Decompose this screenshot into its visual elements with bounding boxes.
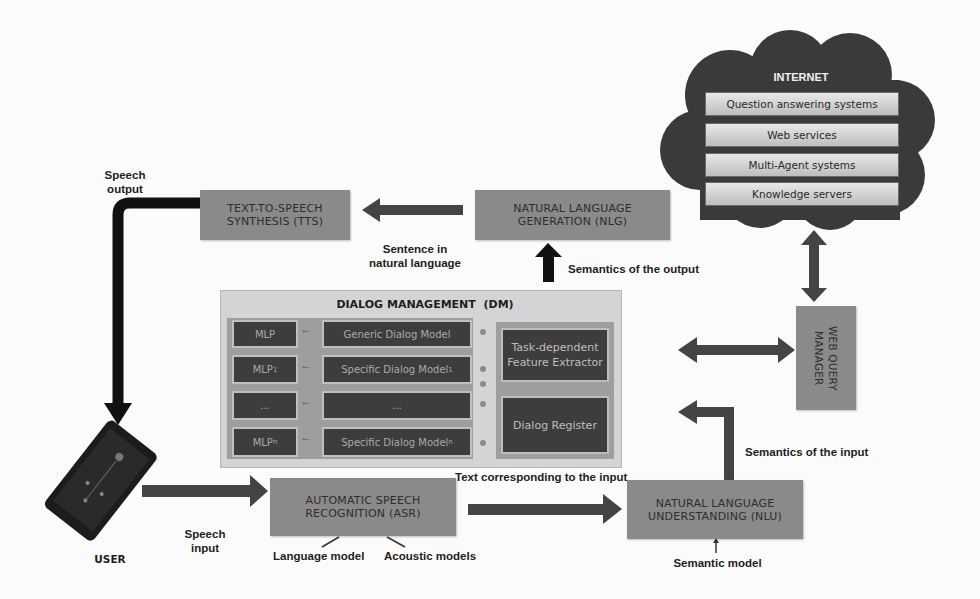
nlg-box: NATURAL LANGUAGE GENERATION (NLG)	[475, 190, 670, 240]
semantic-model-label: Semantic model	[670, 556, 765, 570]
tts-line2: SYNTHESIS (TTS)	[227, 215, 323, 228]
dialog-register-box: Dialog Register	[501, 396, 609, 454]
dm-title: DIALOG MANAGEMENT (DM)	[300, 298, 550, 312]
arrow-left-icon: ←	[302, 434, 310, 444]
text-input-label: Text corresponding to the input	[455, 470, 627, 484]
smartphone-image	[42, 418, 159, 543]
mlp-generic: MLP	[232, 320, 298, 348]
asr-box: AUTOMATIC SPEECH RECOGNITION (ASR)	[270, 478, 456, 536]
connector-dot	[480, 401, 486, 407]
internet-item-web-services: Web services	[705, 123, 899, 147]
connector-dot	[480, 329, 486, 335]
acoustic-models-label: Acoustic models	[384, 549, 476, 563]
dialog-model-ellipsis: ...	[322, 391, 472, 420]
web-query-manager-box: WEB QUERY MANAGER	[796, 306, 856, 410]
arrow-left-icon: ←	[302, 326, 310, 336]
language-model-label: Language model	[273, 549, 364, 563]
wqm-text: WEB QUERY MANAGER	[812, 326, 840, 391]
sentence-natural-language-label: Sentence in natural language	[355, 242, 475, 270]
user-label: USER	[90, 552, 130, 566]
specific-dialog-model-n: Specific Dialog Modeln	[322, 427, 472, 457]
connector-dot	[480, 381, 486, 387]
specific-dialog-model-1: Specific Dialog Model1	[322, 355, 472, 384]
arrow-left-icon: ←	[302, 398, 310, 408]
mlp-ellipsis: ...	[232, 391, 298, 420]
connector-dot	[480, 366, 486, 372]
mlp-1: MLP1	[232, 355, 298, 384]
tts-box: TEXT-TO-SPEECH SYNTHESIS (TTS)	[200, 190, 350, 240]
internet-title: INTERNET	[745, 70, 857, 84]
generic-dialog-model: Generic Dialog Model	[322, 320, 472, 348]
internet-item-knowledge-servers: Knowledge servers	[705, 182, 899, 206]
nlg-line1: NATURAL LANGUAGE	[513, 202, 632, 215]
internet-item-multi-agent: Multi-Agent systems	[705, 153, 899, 177]
tts-line1: TEXT-TO-SPEECH	[227, 202, 323, 215]
nlg-line2: GENERATION (NLG)	[518, 215, 628, 228]
semantics-output-label: Semantics of the output	[568, 262, 699, 276]
internet-item-question-answering: Question answering systems	[705, 92, 899, 116]
semantics-input-label: Semantics of the input	[745, 445, 868, 459]
arrow-left-icon: ←	[302, 362, 310, 372]
connector-dot	[480, 440, 486, 446]
mlp-n: MLPn	[232, 427, 298, 457]
feature-extractor-box: Task-dependent Feature Extractor	[501, 328, 609, 382]
speech-input-label: Speech input	[180, 527, 230, 555]
speech-output-label: Speech output	[95, 168, 155, 196]
nlu-box: NATURAL LANGUAGE UNDERSTANDING (NLU)	[627, 480, 803, 539]
